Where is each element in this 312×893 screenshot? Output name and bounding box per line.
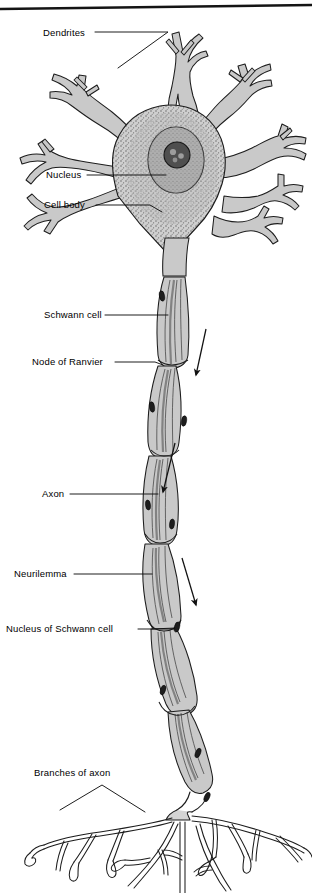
impulse-arrow-3 (182, 558, 196, 605)
label-schwann-cell: Schwann cell (44, 310, 102, 320)
neuron-diagram: Dendrites Nucleus Cell body Schwann cell… (0, 0, 312, 893)
axon-terminal-branches (25, 792, 312, 893)
label-nucleus: Nucleus (46, 170, 81, 180)
label-neurilemma: Neurilemma (14, 569, 67, 579)
nucleolus (164, 142, 190, 168)
label-node-of-ranvier: Node of Ranvier (32, 357, 103, 367)
label-dendrites: Dendrites (43, 28, 85, 38)
label-cell-body: Cell body (44, 200, 85, 210)
leader-node-of-ranvier (115, 362, 163, 365)
axon-hillock (163, 238, 189, 276)
label-nucleus-of-schwann-cell: Nucleus of Schwann cell (6, 624, 113, 634)
leader-branches-of-axon (60, 785, 145, 812)
nucleus (148, 127, 204, 193)
axon-myelin-sheath (143, 277, 213, 794)
leader-dendrites (95, 32, 168, 68)
neuron-illustration (0, 0, 312, 893)
label-axon: Axon (42, 489, 64, 499)
cell-body (112, 105, 225, 250)
impulse-arrow-1 (196, 329, 206, 375)
label-branches-of-axon: Branches of axon (34, 768, 110, 778)
top-border-rule (0, 5, 312, 13)
